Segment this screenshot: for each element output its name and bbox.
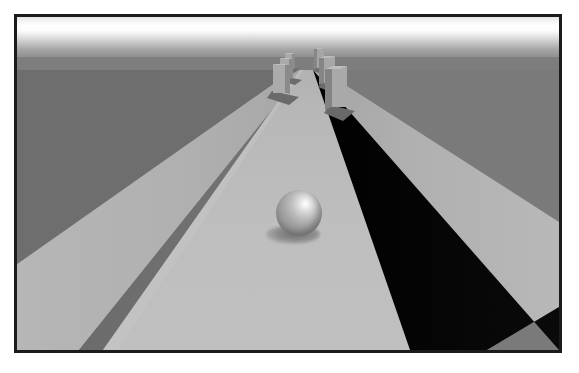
screenshot-stage [0, 0, 579, 373]
block-r3-front [332, 66, 347, 107]
block-r1-side [314, 48, 317, 69]
block-l3-side [285, 64, 290, 94]
render-viewport [17, 17, 559, 350]
block-r3-side [325, 66, 332, 110]
scene-geometry [17, 17, 559, 350]
block-l3-front [273, 64, 285, 93]
block-r2-side [319, 56, 324, 85]
image-frame [14, 14, 562, 353]
sphere [276, 190, 322, 236]
